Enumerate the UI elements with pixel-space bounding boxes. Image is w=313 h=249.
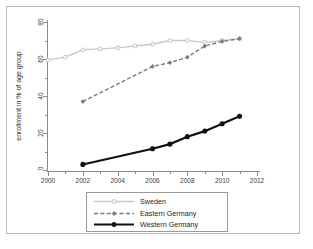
figure: enrollment in % of age group 020406080 2…	[0, 0, 313, 249]
series-line	[48, 39, 240, 60]
x-axis-tick	[153, 172, 154, 176]
data-point-marker	[150, 64, 154, 69]
x-axis-line	[47, 171, 260, 172]
x-axis-tick-label: 2002	[68, 177, 98, 184]
legend-item-eastern-germany: Eastern Germany	[93, 208, 221, 220]
series-layer	[48, 22, 257, 170]
x-axis-tick	[48, 172, 49, 176]
data-point-marker	[168, 60, 172, 65]
x-axis-tick-label: 2004	[103, 177, 133, 184]
data-point-marker	[202, 129, 207, 134]
data-point-marker	[98, 47, 102, 51]
x-axis-minor-tick	[65, 172, 66, 174]
y-axis-tick	[43, 170, 47, 171]
y-axis-tick-label: 40	[37, 93, 44, 115]
x-axis-minor-tick	[240, 172, 241, 174]
y-axis-minor-tick	[45, 41, 47, 42]
data-point-marker	[167, 142, 172, 147]
legend-swatch-sweden	[93, 196, 135, 207]
data-point-marker	[80, 162, 85, 167]
x-axis-minor-tick	[100, 172, 101, 174]
x-axis-tick-label: 2006	[138, 177, 168, 184]
legend-item-sweden: Sweden	[93, 196, 221, 208]
data-point-marker	[186, 39, 190, 43]
legend-label-western-germany: Western Germany	[135, 220, 198, 229]
y-axis-tick-label: 80	[37, 19, 44, 41]
data-point-marker	[151, 42, 155, 46]
legend-label-eastern-germany: Eastern Germany	[135, 209, 196, 218]
data-point-marker	[220, 121, 225, 126]
x-axis-tick	[257, 172, 258, 176]
x-axis-tick	[222, 172, 223, 176]
legend-label-sweden: Sweden	[135, 197, 166, 206]
series-western-germany	[80, 114, 242, 167]
x-axis-minor-tick	[135, 172, 136, 174]
x-axis-minor-tick	[205, 172, 206, 174]
data-point-marker	[168, 39, 172, 43]
series-eastern-germany	[81, 36, 242, 104]
data-point-marker	[81, 99, 85, 104]
y-axis-title-text: enrollment in % of age group	[15, 51, 22, 141]
y-axis-tick	[43, 22, 47, 23]
plot-area	[48, 22, 257, 170]
x-axis-tick	[187, 172, 188, 176]
y-axis-tick-label: 60	[37, 56, 44, 78]
y-axis-minor-tick	[45, 115, 47, 116]
y-axis-tick-label: 20	[37, 130, 44, 152]
y-axis-minor-tick	[45, 152, 47, 153]
y-axis-minor-tick	[45, 78, 47, 79]
y-axis-tick	[43, 133, 47, 134]
series-sweden	[46, 37, 241, 62]
x-axis-tick	[83, 172, 84, 176]
data-point-marker	[64, 55, 68, 59]
y-axis-tick	[43, 96, 47, 97]
y-axis-title: enrollment in % of age group	[12, 22, 24, 170]
data-point-marker	[133, 44, 137, 48]
data-point-marker	[185, 134, 190, 139]
data-point-marker	[81, 48, 85, 52]
x-axis-tick	[118, 172, 119, 176]
legend-swatch-eastern-germany	[93, 208, 135, 219]
x-axis-tick-label: 2000	[33, 177, 63, 184]
data-point-marker	[203, 41, 207, 45]
x-axis-tick-label: 2010	[207, 177, 237, 184]
x-axis-minor-tick	[170, 172, 171, 174]
legend-item-western-germany: Western Germany	[93, 219, 221, 231]
legend-swatch-western-germany	[93, 219, 135, 230]
data-point-marker	[185, 55, 189, 60]
data-point-marker	[237, 114, 242, 119]
data-point-marker	[46, 58, 50, 62]
legend: Sweden Eastern Germany Western Germany	[86, 192, 228, 232]
data-point-marker	[150, 146, 155, 151]
data-point-marker	[116, 46, 120, 50]
x-axis-tick-label: 2012	[242, 177, 272, 184]
series-line	[83, 116, 240, 164]
x-axis-tick-label: 2008	[172, 177, 202, 184]
